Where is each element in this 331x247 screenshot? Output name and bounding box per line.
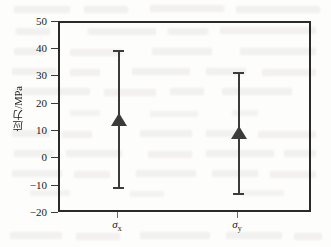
y-tick-30 <box>51 75 58 76</box>
y-tick-20 <box>51 103 58 104</box>
y-tick-label-50: 50 <box>5 16 47 27</box>
plot-frame <box>58 21 311 212</box>
errorbar-cap-low-sigma-y <box>233 193 244 195</box>
x-tick-label-sigma-x: σx <box>87 219 147 233</box>
y-tick-label-0: 0 <box>5 152 47 163</box>
y-tick-label-30: 30 <box>5 70 47 81</box>
y-tick-label-10: 10 <box>5 125 47 136</box>
errorbar-cap-low-sigma-x <box>113 187 124 189</box>
y-tick-neg20 <box>51 212 58 213</box>
y-tick-label-20: 20 <box>5 98 47 109</box>
x-tick-label-sigma-y: σy <box>207 219 267 233</box>
y-tick-label-neg10: −10 <box>5 180 47 191</box>
y-tick-label-40: 40 <box>5 43 47 54</box>
y-tick-50 <box>51 21 58 22</box>
y-tick-neg10 <box>51 185 58 186</box>
y-tick-10 <box>51 130 58 131</box>
data-marker-sigma-x <box>111 113 127 126</box>
y-tick-0 <box>51 157 58 158</box>
figure-root: 应力/MPa 50 40 30 20 10 0 −10 −20 σx σy <box>0 0 331 247</box>
errorbar-cap-high-sigma-y <box>233 72 244 74</box>
y-tick-label-neg20: −20 <box>5 207 47 218</box>
data-marker-sigma-y <box>231 126 247 139</box>
y-tick-40 <box>51 48 58 49</box>
errorbar-cap-high-sigma-x <box>113 50 124 52</box>
